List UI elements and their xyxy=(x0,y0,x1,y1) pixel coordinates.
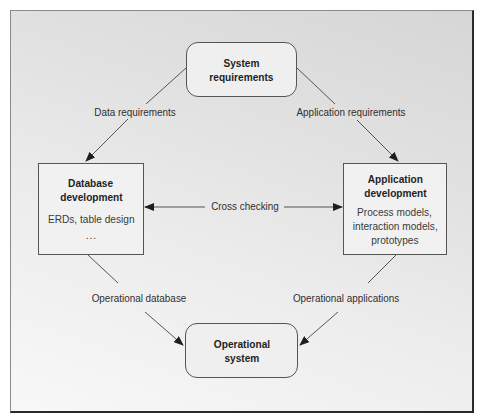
node-body: ERDs, table design xyxy=(48,212,135,226)
node-title: System xyxy=(223,56,259,70)
edge-label-operational-applications: Operational applications xyxy=(293,292,399,304)
node-system-requirements: System requirements xyxy=(186,42,297,97)
node-title: system xyxy=(224,351,259,365)
node-application-development: Application development Process models, … xyxy=(343,163,447,255)
node-database-development: Database development ERDs, table design … xyxy=(38,163,144,255)
node-title: Operational xyxy=(213,337,269,351)
node-title: development xyxy=(364,186,426,200)
edge-label-application-requirements: Application requirements xyxy=(297,106,406,118)
node-title: development xyxy=(60,190,122,204)
node-body: interaction models, xyxy=(353,219,438,233)
node-title: requirements xyxy=(209,70,273,84)
edge-label-cross-checking: Cross checking xyxy=(211,200,279,212)
edge-label-operational-database: Operational database xyxy=(92,292,187,304)
node-body: Process models, xyxy=(358,205,433,219)
node-title: Application xyxy=(367,172,422,186)
node-body: prototypes xyxy=(371,233,418,247)
edge-label-data-requirements: Data requirements xyxy=(94,106,175,118)
node-operational-system: Operational system xyxy=(185,323,298,378)
node-title: Database xyxy=(68,176,113,190)
node-body-ellipsis: ... xyxy=(85,228,96,242)
